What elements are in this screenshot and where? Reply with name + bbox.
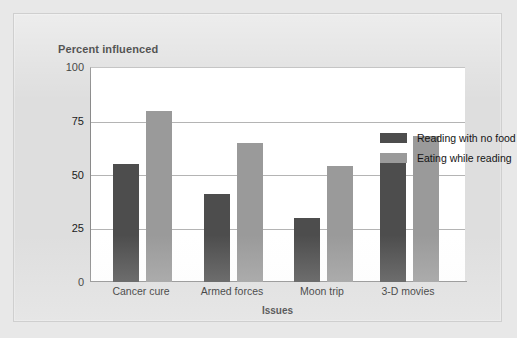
legend-entry-eating-while-reading[interactable]: Eating while reading	[380, 150, 516, 166]
legend-entry-reading-with-no-food[interactable]: Reading with no food	[380, 130, 516, 146]
bar-moon-trip-reading-with-no-food[interactable]	[294, 218, 320, 282]
x-tick-moon-trip: Moon trip	[300, 285, 344, 297]
y-tick-100: 100	[50, 61, 84, 73]
y-axis-tick-labels: 100 75 50 25 0	[48, 67, 84, 282]
bar-group-cancer-cure	[113, 68, 172, 282]
dark-swatch-icon	[380, 133, 407, 143]
chart-page: Percent influenced 100 75 50 25 0	[0, 0, 517, 338]
bar-armed-forces-eating-while-reading[interactable]	[237, 143, 263, 282]
bar-3d-movies-reading-with-no-food[interactable]	[380, 154, 406, 282]
bar-group-3d-movies	[380, 68, 439, 282]
bar-group-moon-trip	[294, 68, 353, 282]
x-tick-3d-movies: 3-D movies	[381, 285, 434, 297]
y-tick-0: 0	[50, 276, 84, 288]
x-axis-title: Issues	[90, 305, 465, 316]
y-tick-25: 25	[50, 222, 84, 234]
x-tick-armed-forces: Armed forces	[201, 285, 263, 297]
bar-group-armed-forces	[204, 68, 263, 282]
light-swatch-icon	[380, 153, 407, 163]
x-axis-tick-labels: Cancer cure Armed forces Moon trip 3-D m…	[90, 285, 465, 303]
legend-label-eating-while-reading: Eating while reading	[417, 152, 512, 164]
y-axis-title: Percent influenced	[58, 43, 158, 55]
bar-cancer-cure-eating-while-reading[interactable]	[146, 111, 172, 282]
chart-card: Percent influenced 100 75 50 25 0	[13, 13, 502, 322]
y-tick-50: 50	[50, 169, 84, 181]
bar-cancer-cure-reading-with-no-food[interactable]	[113, 164, 139, 282]
bar-moon-trip-eating-while-reading[interactable]	[327, 166, 353, 282]
chart-legend: Reading with no food Eating while readin…	[380, 130, 516, 170]
plot-area: Reading with no food Eating while readin…	[90, 67, 465, 282]
legend-label-reading-with-no-food: Reading with no food	[417, 132, 516, 144]
x-tick-cancer-cure: Cancer cure	[112, 285, 169, 297]
y-tick-75: 75	[50, 115, 84, 127]
bar-armed-forces-reading-with-no-food[interactable]	[204, 194, 230, 282]
